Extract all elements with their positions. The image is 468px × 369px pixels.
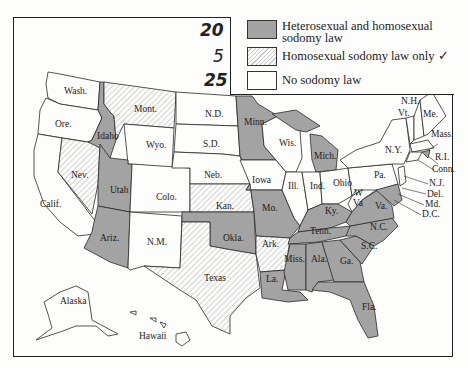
label-ind: Ind. — [310, 181, 325, 191]
legend: Heterosexual and homosexual sodomy law H… — [230, 17, 454, 95]
label-alaska: Alaska — [60, 296, 87, 306]
label-ky: Ky. — [325, 206, 338, 216]
label-hawaii: Hawaii — [139, 331, 167, 341]
label-va: Va. — [375, 201, 387, 211]
label-pa: Pa. — [374, 170, 386, 180]
state-alaska — [36, 286, 118, 340]
handwritten-count-homosexual-only: 5 — [213, 46, 224, 66]
swatch-hatched — [247, 47, 277, 66]
label-nd: N.D. — [205, 109, 223, 119]
label-okla: Okla. — [223, 233, 244, 243]
swatch-white — [247, 71, 277, 90]
label-idaho: Idaho — [97, 131, 119, 141]
state-mass — [410, 140, 434, 152]
label-wyo: Wyo. — [146, 140, 166, 150]
label-wva-2: Va — [353, 198, 364, 208]
label-ill: Ill. — [288, 181, 299, 191]
label-miss: Miss. — [284, 254, 305, 264]
label-nev: Nev. — [71, 170, 89, 180]
legend-label-none: No sodomy law — [282, 71, 361, 90]
label-kan: Kan. — [216, 201, 234, 211]
label-calif: Calif. — [40, 199, 61, 209]
label-utah: Utah — [110, 185, 129, 195]
handwritten-count-none: 25 — [204, 70, 228, 90]
label-minn: Minn. — [244, 117, 267, 127]
label-iowa: Iowa — [252, 175, 272, 185]
label-ala: Ala. — [311, 254, 327, 264]
label-ariz: Ariz. — [100, 233, 119, 243]
label-conn: Conn. — [432, 164, 455, 174]
label-ga: Ga. — [340, 256, 353, 266]
label-ark: Ark. — [262, 239, 279, 249]
legend-item-none: No sodomy law — [247, 71, 361, 90]
label-sd: S.D. — [203, 139, 220, 149]
state-colo — [130, 164, 190, 212]
handwritten-count-both: 20 — [200, 20, 224, 40]
label-del: Del. — [427, 189, 443, 199]
label-texas: Texas — [204, 273, 226, 283]
label-mont: Mont. — [134, 104, 157, 114]
legend-label-homosexual-only: Homosexual sodomy law only ✓ — [282, 47, 449, 66]
legend-label-both-line2: sodomy law — [282, 32, 433, 44]
legend-item-both: Heterosexual and homosexual sodomy law — [247, 20, 433, 44]
label-colo: Colo. — [156, 192, 177, 202]
label-sc: S.C. — [361, 241, 377, 251]
label-ore: Ore. — [55, 119, 72, 129]
label-neb: Neb. — [204, 170, 222, 180]
label-nc: N.C. — [370, 222, 388, 232]
label-me: Me. — [423, 109, 438, 119]
label-vt: Vt. — [398, 108, 410, 118]
label-mich: Mich. — [314, 151, 336, 161]
label-wash: Wash. — [64, 86, 87, 96]
label-nh: N.H. — [401, 96, 419, 106]
label-ri: R.I. — [435, 152, 449, 162]
label-wis: Wis. — [279, 138, 296, 148]
state-ny — [340, 118, 410, 168]
label-wva-1: W — [354, 188, 363, 198]
label-mass: Mass. — [431, 129, 453, 139]
label-mo: Mo. — [262, 203, 278, 213]
legend-item-homosexual-only: Homosexual sodomy law only ✓ — [247, 47, 449, 66]
label-ny: N.Y. — [385, 145, 402, 155]
label-la: La. — [266, 274, 278, 284]
label-nm: N.M. — [147, 237, 167, 247]
label-ohio: Ohio — [333, 178, 352, 188]
label-fla: Fla. — [362, 302, 377, 312]
label-nj: N.J. — [429, 178, 444, 188]
label-md: Md. — [425, 199, 441, 209]
label-dc: D.C. — [422, 209, 440, 219]
swatch-gray — [247, 20, 277, 39]
label-tenn: Tenn. — [310, 226, 331, 236]
